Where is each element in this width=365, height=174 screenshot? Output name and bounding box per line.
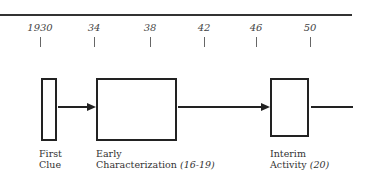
label-reference: (20)	[310, 159, 330, 170]
tick-mark	[94, 37, 95, 47]
tick-mark	[150, 37, 151, 47]
tick-label-1930: 1930	[27, 22, 52, 33]
tick-mark	[310, 37, 311, 47]
timeline-axis	[0, 14, 352, 16]
arrowhead-icon	[87, 103, 96, 111]
label-text: Characterization	[96, 159, 177, 170]
stage-label-interim-activity: Interim Activity (20)	[270, 148, 329, 170]
tick-mark	[256, 37, 257, 47]
arrow-line-2	[178, 106, 262, 108]
stage-label-early-characterization: Early Characterization (16-19)	[96, 148, 215, 170]
stage-box-first-clue	[41, 78, 57, 141]
label-reference: (16-19)	[180, 159, 215, 170]
tick-label-34: 34	[88, 22, 101, 33]
stage-box-interim-activity	[270, 78, 309, 137]
arrowhead-icon	[261, 103, 270, 111]
stage-box-early-characterization	[96, 78, 177, 141]
label-line: Characterization (16-19)	[96, 159, 215, 170]
label-line: Activity (20)	[270, 159, 329, 170]
stage-label-first-clue: First Clue	[39, 148, 62, 170]
label-line: Clue	[39, 159, 62, 170]
arrow-line-1	[58, 106, 88, 108]
tick-label-38: 38	[144, 22, 157, 33]
arrow-line-3	[311, 106, 353, 108]
tick-label-50: 50	[304, 22, 317, 33]
label-line: First	[39, 148, 62, 159]
tick-mark	[40, 37, 41, 47]
tick-label-46: 46	[250, 22, 263, 33]
label-text: Activity	[270, 159, 307, 170]
tick-mark	[204, 37, 205, 47]
tick-label-42: 42	[198, 22, 211, 33]
label-line: Early	[96, 148, 215, 159]
label-line: Interim	[270, 148, 329, 159]
